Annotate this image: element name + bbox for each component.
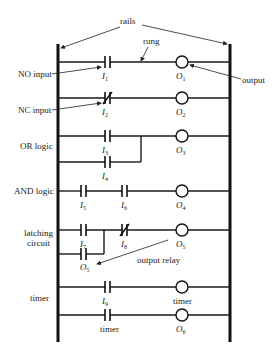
- svg-text:O5: O5: [176, 239, 186, 250]
- svg-text:I5: I5: [79, 200, 86, 211]
- svg-text:I1: I1: [101, 71, 108, 82]
- svg-text:I7: I7: [79, 239, 86, 250]
- svg-text:O6: O6: [176, 324, 186, 335]
- and-logic-label: AND logic: [14, 186, 54, 196]
- output-label: output: [242, 75, 266, 85]
- coil-o3: [176, 130, 188, 142]
- coil-o6: [176, 309, 188, 321]
- coil-timer: [176, 281, 188, 293]
- ladder-diagram: rails I1 O1 rung output NO input I2 O2 N…: [0, 0, 279, 356]
- rung-timer: I9 timer: [58, 281, 230, 307]
- coil-o2: [176, 92, 188, 104]
- svg-text:I9: I9: [101, 296, 108, 307]
- rung-or-logic: I3 I4 O3: [58, 130, 230, 182]
- svg-text:O1: O1: [176, 71, 186, 82]
- or-logic-label: OR logic: [20, 141, 53, 151]
- rung-nc-input: I2 O2: [58, 92, 230, 118]
- rails-arrow-left: [61, 27, 120, 48]
- nc-input-label: NC input: [18, 105, 52, 115]
- coil-o5: [176, 224, 188, 236]
- svg-text:timer: timer: [173, 296, 192, 306]
- svg-text:I3: I3: [101, 145, 108, 156]
- svg-text:O5: O5: [80, 262, 90, 273]
- svg-text:I4: I4: [101, 171, 108, 182]
- rung-label: rung: [143, 36, 160, 46]
- rung-timer-output: timer O6: [58, 309, 230, 335]
- output-arrow: [190, 65, 241, 79]
- svg-text:O4: O4: [176, 200, 186, 211]
- rails-label: rails: [120, 16, 136, 26]
- svg-text:I2: I2: [101, 107, 108, 118]
- svg-text:I6: I6: [120, 200, 127, 211]
- no-input-label: NO input: [18, 69, 52, 79]
- svg-text:O3: O3: [176, 145, 186, 156]
- svg-text:O2: O2: [176, 107, 186, 118]
- svg-text:timer: timer: [100, 324, 119, 334]
- rung-arrow: [141, 47, 148, 61]
- coil-o1: [176, 56, 188, 68]
- rung-and-logic: I5 I6 O4: [58, 185, 230, 211]
- latching-label-2: circuit: [27, 238, 50, 248]
- svg-text:I8: I8: [120, 239, 127, 250]
- output-relay-label: output relay: [137, 255, 181, 265]
- coil-o4: [176, 185, 188, 197]
- latching-label-1: latching: [24, 228, 53, 238]
- timer-label: timer: [30, 293, 49, 303]
